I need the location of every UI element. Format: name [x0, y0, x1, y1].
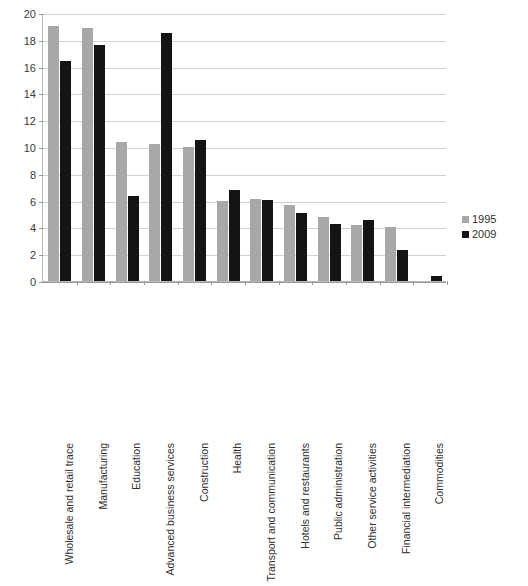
y-axis-tick-label: 12: [24, 116, 36, 127]
x-axis-label-text: Construction: [199, 443, 210, 586]
bar-2009: [296, 213, 307, 281]
x-axis-tick: [279, 281, 280, 285]
bar-group: [178, 14, 212, 281]
x-axis-label-text: Hotels and restaurants: [300, 443, 311, 586]
x-axis-label: Commodities: [434, 443, 445, 586]
x-axis-tick: [178, 281, 179, 285]
bar-2009: [431, 276, 442, 281]
x-axis-label: Transport and communication: [266, 443, 277, 586]
y-axis-tick-label: 4: [30, 223, 36, 234]
bar-group: [110, 14, 144, 281]
y-axis-tick-label: 8: [30, 169, 36, 180]
bar-2009: [397, 250, 408, 281]
x-axis-label: Manufacturing: [98, 443, 109, 586]
x-axis-label: Public administration: [333, 443, 344, 586]
x-axis-category-labels: Wholesale and retail traceManufacturingE…: [42, 288, 446, 447]
bar-group: [312, 14, 346, 281]
x-axis-tick: [346, 281, 347, 285]
x-axis-label-text: Transport and communication: [266, 443, 277, 586]
legend-item-2009: 2009: [462, 227, 496, 242]
bar-2009: [262, 200, 273, 281]
bar-group: [380, 14, 414, 281]
y-axis-tick: [39, 282, 43, 283]
bar-1995: [217, 201, 228, 281]
x-axis-label: Other service activities: [367, 443, 378, 586]
x-axis-label: Financial intermediation: [401, 443, 412, 586]
chart-legend: 1995 2009: [462, 212, 496, 242]
bar-group: [346, 14, 380, 281]
x-axis-label-text: Commodities: [434, 443, 445, 586]
y-axis-tick-label: 10: [24, 143, 36, 154]
bar-1995: [116, 142, 127, 281]
bar-1995: [318, 217, 329, 281]
x-axis-label: Health: [232, 443, 243, 586]
bar-2009: [330, 224, 341, 281]
bar-group: [43, 14, 77, 281]
x-axis-tick: [77, 281, 78, 285]
legend-swatch-2009: [462, 231, 469, 238]
bar-group: [144, 14, 178, 281]
bar-group: [279, 14, 313, 281]
legend-item-1995: 1995: [462, 212, 496, 227]
bar-2009: [94, 45, 105, 282]
x-axis-label: Wholesale and retail trace: [64, 443, 75, 586]
y-axis-tick-label: 6: [30, 196, 36, 207]
y-axis-tick-label: 20: [24, 9, 36, 20]
plot-area: 02468101214161820: [42, 14, 446, 282]
y-axis-tick-label: 18: [24, 35, 36, 46]
x-axis-tick: [312, 281, 313, 285]
bar-group: [413, 14, 447, 281]
x-axis-label-text: Health: [232, 443, 243, 586]
x-axis-label-text: Advanced business services: [165, 443, 176, 586]
bar-1995: [183, 147, 194, 281]
bar-2009: [161, 33, 172, 281]
x-axis-label-text: Education: [131, 443, 142, 586]
x-axis-label-text: Other service activities: [367, 443, 378, 586]
bar-2009: [363, 220, 374, 281]
x-axis-label-text: Wholesale and retail trace: [64, 443, 75, 586]
x-axis-tick: [110, 281, 111, 285]
legend-swatch-1995: [462, 216, 469, 223]
bar-1995: [48, 26, 59, 281]
x-axis-tick: [447, 281, 448, 285]
bar-1995: [385, 227, 396, 281]
bar-1995: [149, 144, 160, 281]
y-axis-tick-label: 0: [30, 277, 36, 288]
bar-1995: [82, 28, 93, 281]
bar-group: [211, 14, 245, 281]
bar-1995: [284, 205, 295, 281]
x-axis-label: Advanced business services: [165, 443, 176, 586]
bar-1995: [351, 225, 362, 281]
x-axis-label-text: Public administration: [333, 443, 344, 586]
x-axis-label-text: Manufacturing: [98, 443, 109, 586]
x-axis-tick: [380, 281, 381, 285]
y-axis-tick-label: 16: [24, 62, 36, 73]
legend-label-1995: 1995: [472, 214, 496, 225]
y-axis-tick-label: 2: [30, 250, 36, 261]
legend-label-2009: 2009: [472, 229, 496, 240]
x-axis-label: Construction: [199, 443, 210, 586]
bar-group: [77, 14, 111, 281]
x-axis-tick: [211, 281, 212, 285]
bar-group: [245, 14, 279, 281]
x-axis-tick: [144, 281, 145, 285]
bar-2009: [60, 61, 71, 281]
x-axis-tick: [245, 281, 246, 285]
bar-2009: [195, 140, 206, 281]
bar-2009: [128, 196, 139, 281]
x-axis-label: Hotels and restaurants: [300, 443, 311, 586]
bar-1995: [250, 199, 261, 281]
x-axis-label-text: Financial intermediation: [401, 443, 412, 586]
y-axis-tick-label: 14: [24, 89, 36, 100]
x-axis-label: Education: [131, 443, 142, 586]
x-axis-tick: [413, 281, 414, 285]
bar-2009: [229, 190, 240, 281]
